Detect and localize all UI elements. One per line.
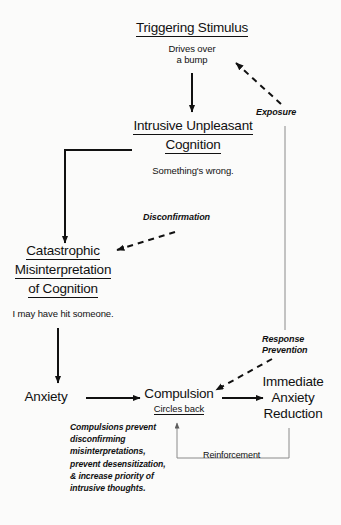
arrow-exposure-dashed (236, 63, 281, 104)
catastrophic-example: I may have hit someone. (2, 308, 124, 319)
compulsion-example: Circles back (134, 403, 224, 415)
node-immediate-anxiety-reduction: Immediate Anxiety Reduction (248, 374, 338, 422)
arrow-disconfirmation-dashed (117, 232, 175, 250)
note-line-6: intrusive thoughts. (70, 482, 182, 494)
note-line-5: & increase priority of (70, 470, 182, 482)
node-catastrophic-misinterpretation: Catastrophic Misinterpretation of Cognit… (2, 243, 124, 319)
catastrophic-label-line2: Misinterpretation (2, 262, 124, 279)
anxiety-label: Anxiety (8, 389, 84, 405)
triggering-stimulus-label: Triggering Stimulus (108, 20, 276, 37)
node-intrusive-cognition: Intrusive Unpleasant Cognition Something… (104, 118, 282, 176)
note-line-3: misinterpretations, (70, 445, 182, 457)
note-line-1: Compulsions prevent (70, 421, 182, 433)
edge-label-exposure: Exposure (256, 107, 296, 118)
response-prevention-line1: Response (262, 334, 308, 345)
node-compulsion: Compulsion Circles back (134, 386, 224, 415)
note-line-2: disconfirming (70, 433, 182, 445)
reduction-label-line2: Anxiety (248, 390, 338, 406)
edge-label-reinforcement: Reinforcement (203, 450, 260, 460)
triggering-stimulus-example-line1: Drives over (108, 43, 276, 54)
triggering-stimulus-example-line2: a bump (108, 54, 276, 65)
intrusive-cognition-label-line2: Cognition (104, 137, 282, 154)
node-anxiety: Anxiety (8, 389, 84, 405)
note-compulsions-effect: Compulsions prevent disconfirming misint… (70, 421, 182, 494)
edge-label-response-prevention: Response Prevention (262, 334, 308, 357)
ocd-cycle-diagram: Triggering Stimulus Drives over a bump I… (0, 0, 341, 525)
compulsion-label: Compulsion (134, 386, 224, 402)
reduction-label-line3: Reduction (248, 406, 338, 422)
intrusive-cognition-label-line1: Intrusive Unpleasant (104, 118, 282, 135)
edge-label-disconfirmation: Disconfirmation (143, 212, 210, 223)
response-prevention-line2: Prevention (262, 345, 308, 356)
node-triggering-stimulus: Triggering Stimulus Drives over a bump (108, 20, 276, 65)
catastrophic-label-line3: of Cognition (2, 281, 124, 298)
catastrophic-label-line1: Catastrophic (2, 243, 124, 260)
note-line-4: prevent desensitization, (70, 458, 182, 470)
intrusive-cognition-example: Something's wrong. (104, 165, 282, 176)
reduction-label-line1: Immediate (248, 374, 338, 390)
